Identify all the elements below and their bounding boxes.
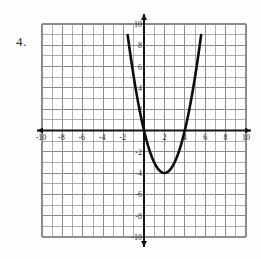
graph-svg: -10-8-6-4-2246810 108642-2-4-6-8-10 <box>36 6 254 252</box>
y-tick-label: -2 <box>135 148 142 157</box>
x-tick-label: 6 <box>203 133 207 142</box>
x-tick-label: 8 <box>224 133 228 142</box>
problem-figure: 4. -10-8-6-4-2246810 108642-2-4-6-8-10 <box>0 0 261 259</box>
x-tick-label: -8 <box>58 133 65 142</box>
y-tick-label: -8 <box>135 212 142 221</box>
y-tick-label: 6 <box>138 63 142 72</box>
x-tick-label: -2 <box>119 133 126 142</box>
y-tick-label: -6 <box>135 190 142 199</box>
y-tick-label: 10 <box>134 20 142 29</box>
x-tick-label: -6 <box>78 133 85 142</box>
coordinate-graph: -10-8-6-4-2246810 108642-2-4-6-8-10 <box>36 6 254 252</box>
problem-number-label: 4. <box>16 34 27 50</box>
x-tick-label: -4 <box>99 133 106 142</box>
x-tick-label: -10 <box>36 133 46 142</box>
y-tick-label: -4 <box>135 169 142 178</box>
y-tick-label: -10 <box>131 233 142 242</box>
x-tick-label: 2 <box>162 133 166 142</box>
y-tick-label: 4 <box>138 84 142 93</box>
y-tick-label: 8 <box>138 41 142 50</box>
x-tick-label: 10 <box>242 133 250 142</box>
